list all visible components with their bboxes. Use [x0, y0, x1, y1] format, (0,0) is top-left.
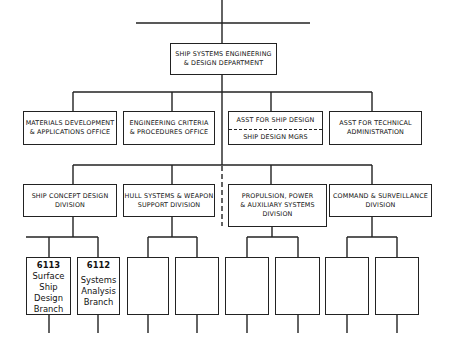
branch-code: 6112 [87, 260, 110, 271]
command-surveillance-division-box: COMMAND & SURVEILLANCE DIVISION [329, 184, 432, 217]
branch-label-line-3: Design [34, 293, 63, 304]
division-label-line-2: DIVISION [365, 201, 395, 210]
branch-box-empty [175, 257, 219, 315]
branch-label-line-1: Systems [81, 275, 117, 286]
branch-label-line-2: Analysis [81, 286, 116, 297]
branch-box-empty [127, 257, 169, 315]
division-label-line-2: DIVISION [55, 201, 85, 210]
branch-box-empty [375, 257, 419, 315]
branch-code: 6113 [37, 260, 60, 271]
branch-label-line-4: Branch [34, 304, 64, 315]
asst-ship-design-box: ASST FOR SHIP DESIGN SHIP DESIGN MGRS [228, 111, 323, 145]
department-label-line-2: & DESIGN DEPARTMENT [184, 59, 263, 68]
propulsion-division-box: PROPULSION, POWER & AUXILIARY SYSTEMS DI… [228, 184, 327, 227]
branch-label-line-3: Branch [84, 297, 114, 308]
branch-box-empty [275, 257, 320, 315]
engineering-criteria-office-box: ENGINEERING CRITERIA & PROCEDURES OFFICE [123, 111, 215, 145]
hull-systems-division-box: HULL SYSTEMS & WEAPON SUPPORT DIVISION [123, 184, 215, 217]
branch-box-systems-analysis: 6112 Systems Analysis Branch [77, 257, 120, 315]
org-chart: SHIP SYSTEMS ENGINEERING & DESIGN DEPART… [0, 0, 454, 351]
office-label-line-1: MATERIALS DEVELOPMENT [26, 119, 115, 128]
division-label-line-1: COMMAND & SURVEILLANCE [333, 192, 428, 201]
branch-box-surface-ship-design: 6113 Surface Ship Design Branch [26, 257, 71, 315]
division-label-line-1: PROPULSION, POWER [242, 192, 313, 201]
department-label-line-1: SHIP SYSTEMS ENGINEERING [175, 50, 271, 59]
branch-box-empty [225, 257, 269, 315]
office-label-line-2: & APPLICATIONS OFFICE [30, 128, 110, 137]
ship-design-mgrs-label: SHIP DESIGN MGRS [243, 133, 308, 142]
branch-label-line-2: Ship [39, 282, 57, 293]
branch-box-empty [325, 257, 369, 315]
division-label-line-2: SUPPORT DIVISION [138, 201, 201, 210]
office-label-line-1: ENGINEERING CRITERIA [129, 119, 208, 128]
asst-ship-design-label: ASST FOR SHIP DESIGN [237, 116, 315, 125]
branch-label-line-1: Surface [33, 271, 65, 282]
office-label-line-2: ADMINISTRATION [347, 128, 404, 137]
division-label-line-3: DIVISION [262, 210, 292, 219]
materials-office-box: MATERIALS DEVELOPMENT & APPLICATIONS OFF… [23, 111, 117, 145]
division-label-line-1: HULL SYSTEMS & WEAPON [125, 192, 214, 201]
division-label-line-2: & AUXILIARY SYSTEMS [240, 201, 315, 210]
asst-technical-admin-box: ASST FOR TECHNICAL ADMINISTRATION [329, 111, 422, 145]
division-label-line-1: SHIP CONCEPT DESIGN [32, 192, 109, 201]
department-box: SHIP SYSTEMS ENGINEERING & DESIGN DEPART… [170, 43, 277, 75]
office-label-line-2: & PROCEDURES OFFICE [130, 128, 209, 137]
ship-concept-design-division-box: SHIP CONCEPT DESIGN DIVISION [23, 184, 117, 217]
office-label-line-1: ASST FOR TECHNICAL [339, 119, 412, 128]
